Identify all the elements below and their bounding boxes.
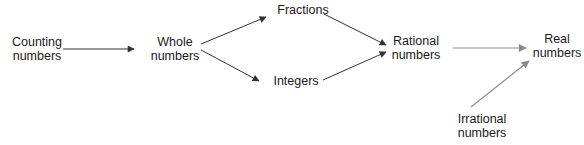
node-label-line: Irrational <box>458 112 507 126</box>
node-rational: Rationalnumbers <box>392 34 441 62</box>
arrow-whole-to-fractions <box>201 17 266 44</box>
node-label-line: numbers <box>12 49 62 63</box>
node-whole: Wholenumbers <box>151 35 200 63</box>
node-label-line: numbers <box>533 46 582 60</box>
node-label-line: numbers <box>458 126 507 140</box>
node-counting: Countingnumbers <box>12 35 62 63</box>
node-label-line: numbers <box>151 49 200 63</box>
node-label-line: Rational <box>392 34 441 48</box>
node-label-line: Whole <box>151 35 200 49</box>
node-label-line: numbers <box>392 48 441 62</box>
arrow-irrational-to-real <box>471 61 529 107</box>
node-irrational: Irrationalnumbers <box>458 112 507 140</box>
node-label-line: Fractions <box>277 3 328 17</box>
node-fractions: Fractions <box>277 3 328 17</box>
arrow-integers-to-rational <box>323 52 386 80</box>
node-label-line: Integers <box>273 74 318 88</box>
node-label-line: Counting <box>12 35 62 49</box>
node-real: Realnumbers <box>533 32 582 60</box>
arrow-fractions-to-rational <box>324 14 386 45</box>
node-integers: Integers <box>273 74 318 88</box>
arrow-whole-to-integers <box>201 50 259 81</box>
node-label-line: Real <box>533 32 582 46</box>
